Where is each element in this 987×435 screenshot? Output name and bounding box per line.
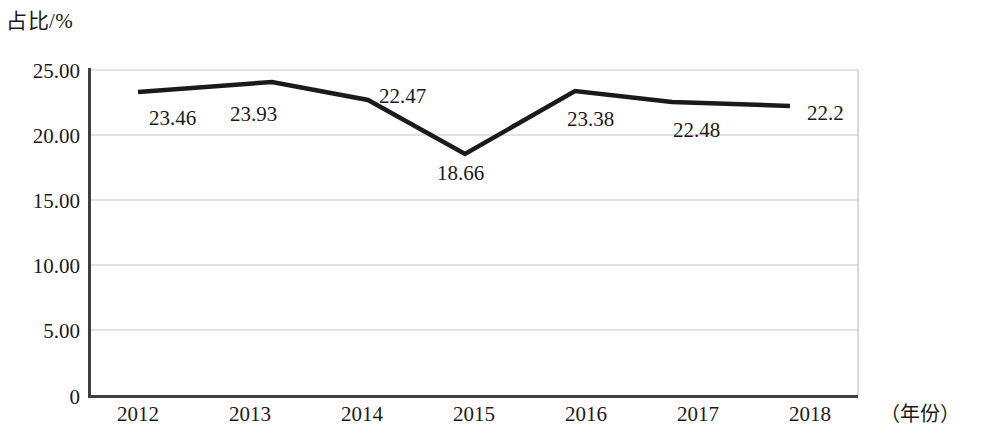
x-tick-label: 2016 [531,404,641,425]
line-chart: 占比/% 25.00 20.00 15.00 10.00 5.00 0 23.4… [0,0,987,435]
x-tick-label: 2017 [643,404,753,425]
x-tick-label: 2018 [755,404,865,425]
plot-area [0,0,987,435]
x-tick-label: 2013 [195,404,305,425]
gridlines [89,70,858,330]
x-tick-label: 2015 [419,404,529,425]
data-series-line [138,82,790,154]
x-tick-label: 2012 [83,404,193,425]
x-axis-title: （年份） [880,404,960,425]
x-tick-label: 2014 [307,404,417,425]
